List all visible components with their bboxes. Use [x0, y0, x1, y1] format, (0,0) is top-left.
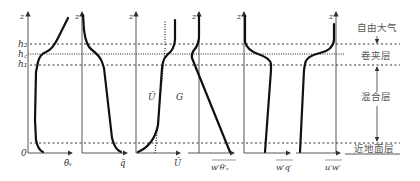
- free-atmosphere-label: 自由大气: [357, 22, 397, 33]
- mixed-layer-label: 混合层: [361, 91, 391, 102]
- entrainment-zone-label: 卷夹层: [361, 50, 391, 61]
- panel-q: z q̄: [74, 12, 127, 168]
- theta-profile-curve: [35, 18, 68, 152]
- zero-label: 0: [21, 148, 27, 158]
- x-axis-label: q̄: [120, 158, 126, 168]
- z-axis-label: z: [74, 12, 80, 21]
- height-labels: h₂ h꜀ h₁ 0: [18, 39, 28, 158]
- U-curve-label: Ū: [148, 91, 156, 102]
- z-axis-label: z: [191, 12, 197, 21]
- q-profile-curve: [83, 15, 121, 152]
- x-axis-label: u′w′: [325, 163, 341, 172]
- surface-layer-label: 近地面层: [354, 143, 394, 154]
- w-theta-flux-curve: [192, 16, 230, 152]
- h2-label: h₂: [18, 39, 28, 49]
- z-axis-label: z: [19, 12, 25, 21]
- height-reference-lines: [28, 44, 400, 154]
- x-axis-label: w′θ′ᵥ: [211, 163, 229, 172]
- U-profile-curve: [138, 20, 175, 152]
- z-axis-label: z: [128, 12, 134, 21]
- z-axis-label: z: [328, 12, 334, 21]
- w-q-flux-curve: [245, 16, 271, 152]
- G-line-label: G: [176, 92, 183, 102]
- z-axis-label: z: [236, 12, 242, 21]
- panel-w-q: z w′q′: [236, 12, 293, 172]
- x-axis-label: w′q′: [276, 163, 292, 172]
- hc-label: h꜀: [18, 49, 28, 59]
- panel-u-w: z u′w′: [296, 12, 342, 172]
- boundary-layer-diagram: h₂ h꜀ h₁ 0 z θ̄ᵥ z q̄ z Ū G Ū z: [0, 0, 420, 181]
- panel-theta: z θ̄ᵥ: [19, 12, 72, 168]
- x-axis-label: Ū: [174, 157, 182, 168]
- layer-labels: 自由大气 卷夹层 混合层 近地面层: [354, 22, 397, 154]
- panel-w-theta: z w′θ′ᵥ: [188, 12, 236, 172]
- x-axis-label: θ̄ᵥ: [64, 158, 72, 168]
- panel-U: z Ū G Ū: [128, 12, 183, 168]
- u-w-flux-curve: [300, 24, 334, 152]
- h1-label: h₁: [18, 59, 27, 69]
